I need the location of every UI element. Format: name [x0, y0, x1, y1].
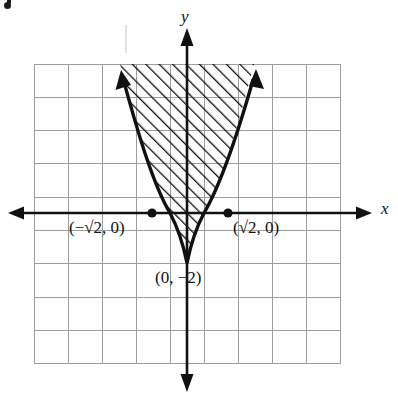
coordinate-plane-svg — [0, 0, 398, 397]
right-x-intercept-label: (√2, 0) — [233, 219, 279, 236]
y-axis-bottom-arrowhead — [181, 374, 194, 392]
y-axis-top-arrowhead — [181, 28, 194, 46]
y-axis-label: y — [181, 8, 189, 25]
x-axis-right-arrowhead — [356, 207, 372, 220]
right-x-intercept-point — [223, 208, 232, 217]
x-axis-label: x — [381, 200, 389, 217]
vertex-label: (0, −2) — [155, 269, 201, 286]
left-x-intercept-point — [147, 208, 156, 217]
left-x-intercept-label: (−√2, 0) — [69, 219, 125, 236]
x-axis-left-arrowhead — [8, 207, 24, 220]
graph-figure: y x (−√2, 0) (√2, 0) (0, −2) — [0, 0, 398, 397]
